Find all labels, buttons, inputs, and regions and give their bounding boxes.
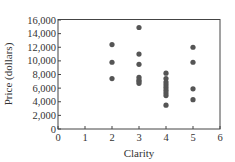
scatter-chart: Price (dollars) Clarity 02,0004,0006,000… [0, 0, 235, 162]
y-tick-label: 4,000 [32, 96, 56, 107]
data-point [190, 97, 195, 102]
y-tick-label: 12,000 [27, 42, 56, 53]
x-axis-label: Clarity [124, 147, 155, 159]
y-tick-label: 2,000 [32, 110, 56, 121]
data-point [136, 62, 141, 67]
data-point [109, 76, 114, 81]
x-tick-label: 6 [217, 132, 222, 143]
y-tick-label: 10,000 [27, 55, 56, 66]
data-point [163, 71, 168, 76]
x-tick-label: 4 [163, 132, 169, 143]
x-tick-label: 1 [82, 132, 87, 143]
y-axis-title: Price (dollars) [2, 42, 15, 105]
y-axis: 02,0004,0006,0008,00010,00012,00014,0001… [27, 15, 61, 135]
x-tick-label: 5 [190, 132, 195, 143]
data-point [136, 51, 141, 56]
data-point [136, 25, 141, 30]
y-tick-label: 8,000 [32, 69, 56, 80]
y-tick-label: 6,000 [32, 83, 56, 94]
data-point [136, 81, 141, 86]
data-point [190, 60, 195, 65]
data-point [109, 60, 114, 65]
plot-frame [58, 20, 220, 130]
x-tick-label: 3 [136, 132, 141, 143]
y-axis-label: Price (dollars) [2, 42, 15, 105]
y-tick-label: 16,000 [27, 15, 56, 26]
data-point [190, 86, 195, 91]
x-tick-label: 2 [109, 132, 114, 143]
y-tick-label: 14,000 [27, 28, 56, 39]
data-points [109, 25, 195, 108]
data-point [163, 103, 168, 108]
data-point [163, 93, 168, 98]
data-point [109, 42, 114, 47]
x-tick-label: 0 [55, 132, 60, 143]
data-point [190, 45, 195, 50]
